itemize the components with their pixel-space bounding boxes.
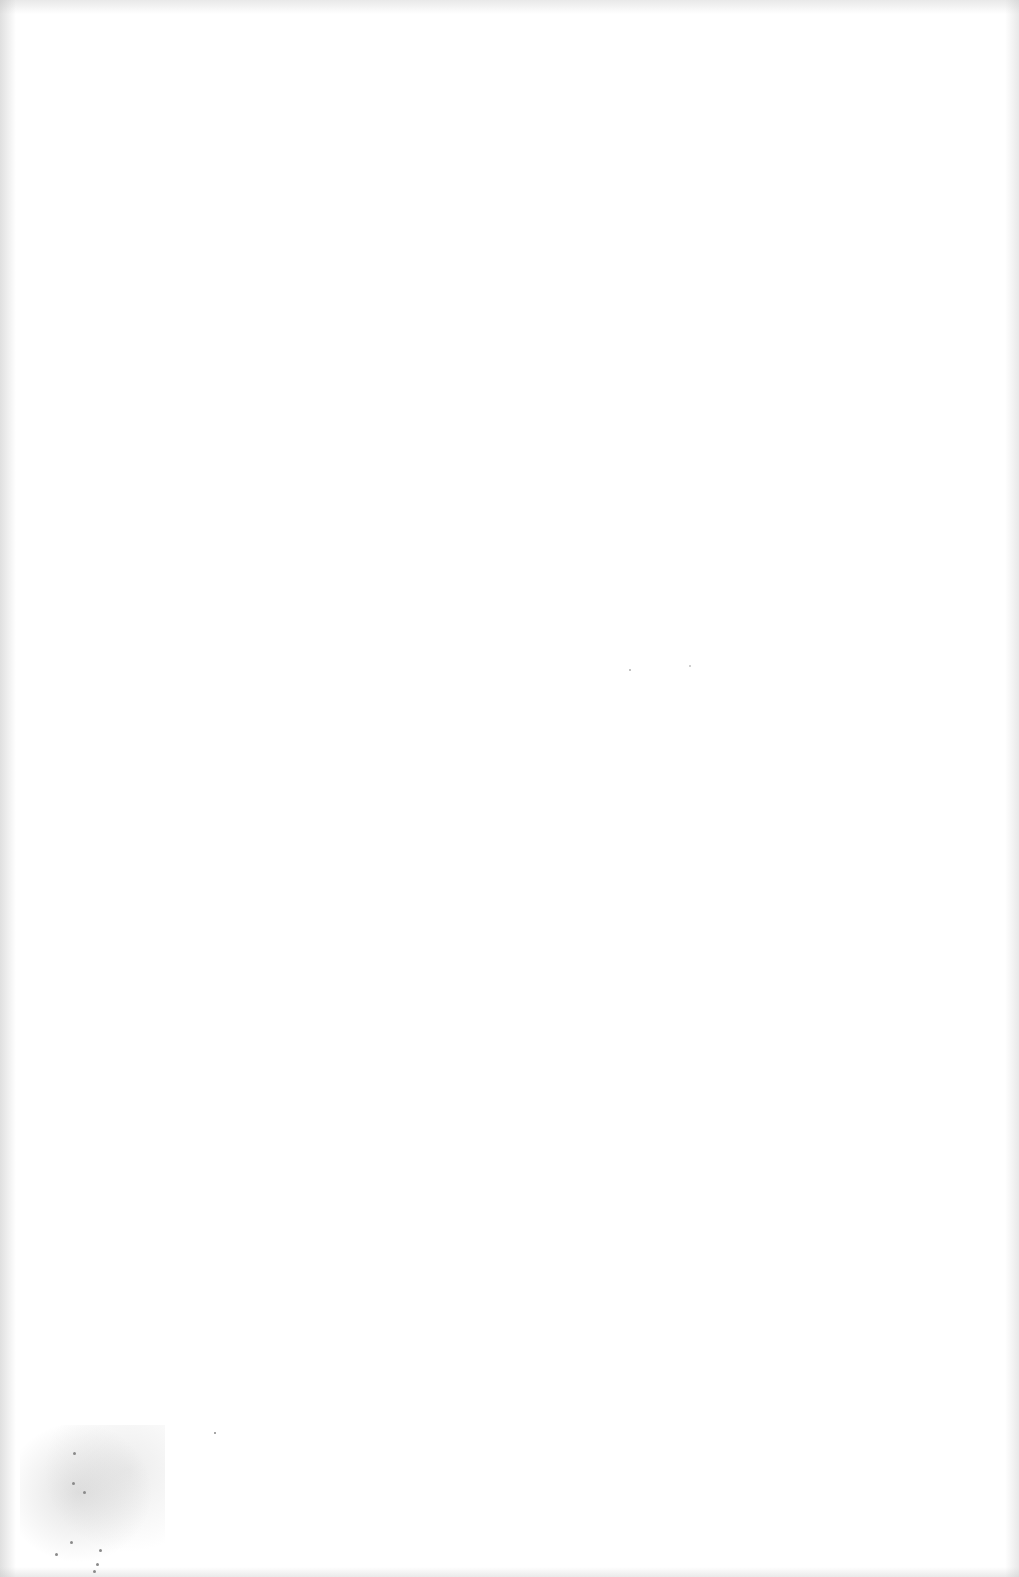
speck [689,665,691,667]
speck [73,1452,76,1455]
speck [214,1432,216,1434]
scan-edge-left [0,0,16,1577]
speck [55,1553,58,1556]
speck [70,1541,73,1544]
blank-page [0,0,1019,1577]
speck [96,1563,99,1566]
speck [99,1549,102,1552]
scan-edge-right [1005,0,1019,1577]
scan-smudge [20,1425,165,1575]
scan-edge-top [0,0,1019,14]
speck [83,1491,86,1494]
speck [72,1482,75,1485]
speck [629,669,631,671]
speck [93,1570,96,1573]
